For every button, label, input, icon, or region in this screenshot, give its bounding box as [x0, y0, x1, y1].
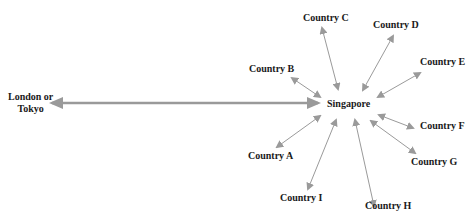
hub-label-singapore: Singapore — [327, 98, 370, 110]
arrow-country-d — [363, 36, 393, 90]
country-f-label: Country F — [420, 120, 465, 132]
arrow-country-i — [308, 120, 336, 189]
hub-and-spoke-diagram: London or Tokyo Singapore Country A Coun… — [0, 0, 470, 222]
arrow-country-e — [378, 73, 420, 97]
country-e-label: Country E — [420, 56, 465, 68]
arrow-country-h — [355, 120, 374, 206]
country-h-label: Country H — [365, 200, 411, 212]
country-d-label: Country D — [373, 19, 419, 31]
arrow-country-f — [379, 115, 413, 128]
arrow-country-a — [277, 116, 320, 147]
arrows-layer — [0, 0, 470, 222]
origin-label: London or Tokyo — [8, 91, 53, 115]
country-c-label: Country C — [303, 12, 349, 24]
country-g-label: Country G — [411, 156, 457, 168]
country-b-label: Country B — [249, 63, 294, 75]
arrow-country-b — [292, 78, 320, 97]
origin-label-line2: Tokyo — [8, 103, 53, 115]
origin-label-line1: London or — [8, 91, 53, 103]
country-a-label: Country A — [248, 150, 293, 162]
arrow-country-c — [322, 28, 338, 89]
country-i-label: Country I — [280, 192, 323, 204]
